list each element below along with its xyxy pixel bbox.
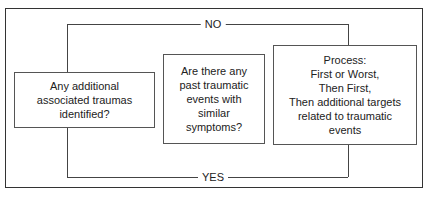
- past-events-box: Are there any past traumatic events with…: [163, 54, 265, 144]
- associated-traumas-text: Any additional associated traumas identi…: [37, 79, 132, 121]
- process-box: Process: First or Worst, Then First, The…: [273, 45, 417, 145]
- process-text: Process: First or Worst, Then First, The…: [289, 53, 401, 137]
- no-connector-vertical-right: [348, 24, 349, 45]
- yes-label: YES: [198, 171, 228, 183]
- no-label: NO: [201, 18, 226, 30]
- past-events-text: Are there any past traumatic events with…: [179, 64, 248, 134]
- no-connector-vertical-left: [67, 24, 68, 72]
- yes-connector-vertical-right: [348, 145, 349, 177]
- associated-traumas-box: Any additional associated traumas identi…: [14, 72, 155, 128]
- yes-connector-vertical-left: [67, 127, 68, 177]
